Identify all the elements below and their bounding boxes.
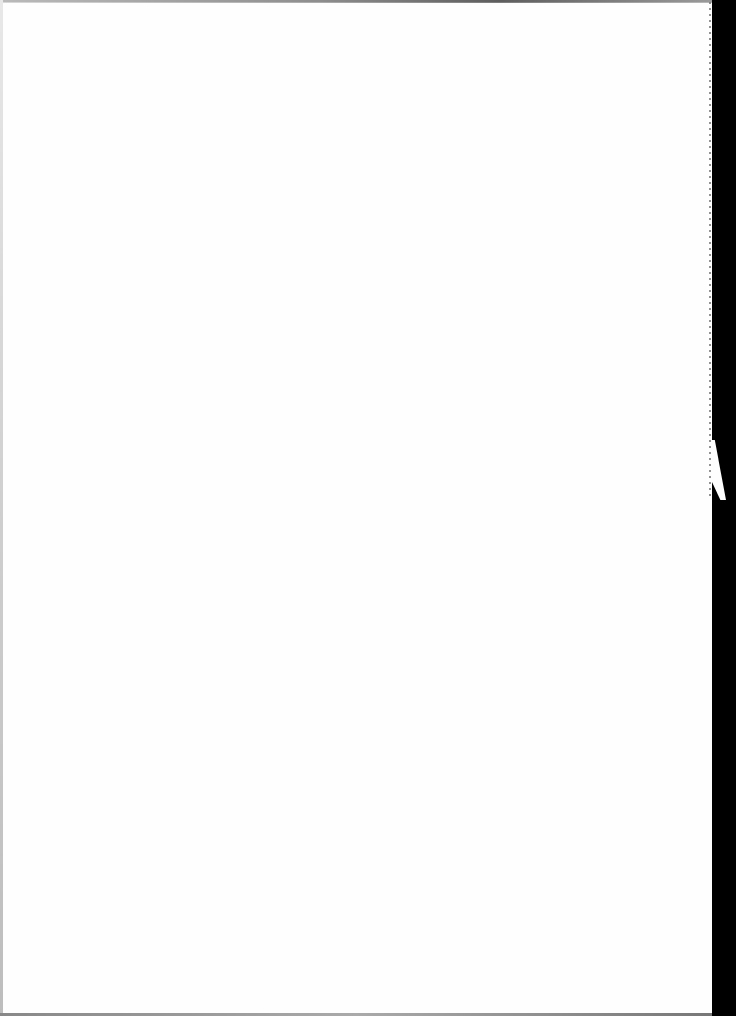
- torn-paper-flap: [712, 440, 726, 500]
- blank-paper-page: [0, 0, 712, 1016]
- perforated-edge: [708, 0, 714, 500]
- top-edge-shadow: [0, 0, 712, 3]
- scanned-document: [0, 0, 736, 1016]
- left-edge-shadow: [0, 0, 3, 1016]
